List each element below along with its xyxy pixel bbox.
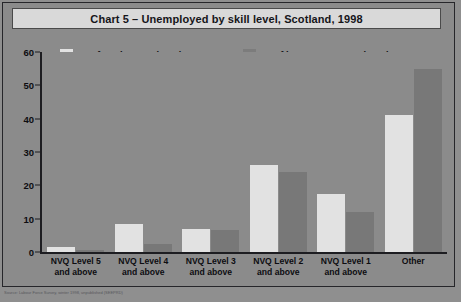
plot-area xyxy=(40,52,447,254)
bar xyxy=(211,230,239,252)
x-axis-label-line1: NVQ Level 1 xyxy=(321,256,371,266)
bar xyxy=(279,172,307,252)
y-axis: 0102030405060 xyxy=(0,52,40,252)
bar xyxy=(250,165,278,252)
x-axis-label-line1: NVQ Level 5 xyxy=(51,256,101,266)
x-axis-label-line2: and above xyxy=(312,267,380,278)
x-axis-label-line1: NVQ Level 3 xyxy=(186,256,236,266)
bar-group xyxy=(177,52,245,252)
x-axis-label-line2: and above xyxy=(245,267,313,278)
bar xyxy=(414,69,442,252)
bar-group xyxy=(110,52,178,252)
bar xyxy=(317,194,345,252)
x-axis: NVQ Level 5and aboveNVQ Level 4and above… xyxy=(42,256,447,277)
bar xyxy=(47,247,75,252)
bar xyxy=(346,212,374,252)
x-axis-label-line2: and above xyxy=(110,267,178,278)
y-axis-tick-label: 0 xyxy=(29,247,34,258)
y-axis-tick-label: 60 xyxy=(23,47,34,58)
chart-figure: Chart 5 – Unemployed by skill level, Sco… xyxy=(0,0,461,302)
bar-group xyxy=(42,52,110,252)
bar-group xyxy=(245,52,313,252)
chart-footnote: Source: Labour Force Survey, winter 1998… xyxy=(4,290,304,295)
x-axis-tick-label: Other xyxy=(380,256,448,277)
bar xyxy=(182,229,210,252)
x-axis-tick-label: NVQ Level 2and above xyxy=(245,256,313,277)
x-axis-tick-label: NVQ Level 1and above xyxy=(312,256,380,277)
bar-group xyxy=(312,52,380,252)
x-axis-label-line1: Other xyxy=(402,256,425,266)
x-axis-tick-label: NVQ Level 4and above xyxy=(110,256,178,277)
page-title: Chart 5 – Unemployed by skill level, Sco… xyxy=(90,13,362,25)
y-axis-tick-label: 30 xyxy=(23,147,34,158)
y-axis-tick-label: 40 xyxy=(23,113,34,124)
bar xyxy=(115,224,143,252)
x-axis-label-line1: NVQ Level 2 xyxy=(253,256,303,266)
y-axis-tick-label: 10 xyxy=(23,213,34,224)
y-axis-tick-label: 50 xyxy=(23,80,34,91)
x-axis-label-line1: NVQ Level 4 xyxy=(118,256,168,266)
bar xyxy=(76,250,104,252)
bar xyxy=(385,115,413,252)
y-axis-tick-label: 20 xyxy=(23,180,34,191)
bars-layer xyxy=(42,52,447,252)
x-axis-label-line2: and above xyxy=(177,267,245,278)
x-axis-label-line2: and above xyxy=(42,267,110,278)
bar-group xyxy=(380,52,448,252)
x-axis-tick-label: NVQ Level 5and above xyxy=(42,256,110,277)
chart-title-box: Chart 5 – Unemployed by skill level, Sco… xyxy=(12,8,441,29)
x-axis-tick-label: NVQ Level 3and above xyxy=(177,256,245,277)
bar xyxy=(144,244,172,252)
